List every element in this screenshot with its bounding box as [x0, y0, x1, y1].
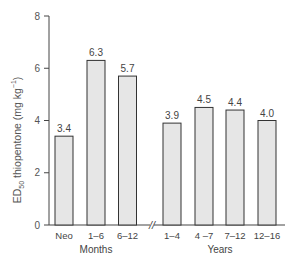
bar-value-label: 3.4 — [57, 123, 71, 134]
bar-value-label: 4.4 — [228, 97, 242, 108]
x-tick-label: 1–4 — [164, 230, 180, 241]
chart-canvas: 02468//3.4Neo6.31–65.76–123.91–44.54 –74… — [0, 0, 293, 263]
group-label-years: Years — [207, 244, 232, 255]
y-tick-label: 0 — [34, 220, 40, 231]
x-tick-label: 1–6 — [88, 230, 104, 241]
bar — [163, 123, 181, 225]
y-tick-label: 6 — [34, 63, 40, 74]
bar — [87, 60, 105, 225]
bar-value-label: 5.7 — [121, 63, 135, 74]
x-tick-label: 6–12 — [117, 230, 138, 241]
y-tick-label: 4 — [34, 115, 40, 126]
group-label-months: Months — [80, 244, 113, 255]
bar — [55, 136, 73, 225]
bar-value-label: 3.9 — [165, 110, 179, 121]
x-tick-label: 12–16 — [254, 230, 280, 241]
bar-value-label: 4.0 — [260, 108, 274, 119]
x-tick-label: 4 –7 — [195, 230, 214, 241]
bar-chart: 02468//3.4Neo6.31–65.76–123.91–44.54 –74… — [0, 0, 293, 263]
bar-value-label: 6.3 — [89, 47, 103, 58]
bar — [226, 110, 244, 225]
bar — [119, 76, 137, 225]
y-axis-label: ED50 thiopentone (mg kg−1) — [10, 77, 25, 204]
x-tick-label: 7–12 — [224, 230, 245, 241]
x-tick-label: Neo — [55, 230, 72, 241]
y-tick-label: 2 — [34, 167, 40, 178]
bar — [195, 107, 213, 225]
bar — [258, 121, 276, 226]
bar-value-label: 4.5 — [197, 94, 211, 105]
axis-break-mark: // — [148, 219, 156, 231]
y-tick-label: 8 — [34, 11, 40, 22]
